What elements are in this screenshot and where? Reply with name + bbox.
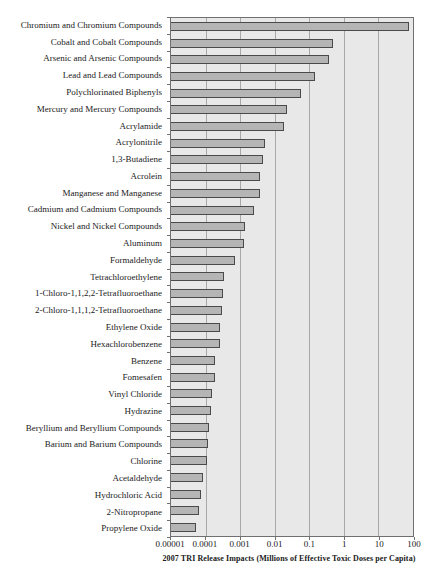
bar-row [171,152,413,169]
bar [171,272,224,281]
category-label: Chlorine [0,453,166,470]
y-axis-tick-mark [167,403,170,404]
bar-row [171,51,413,68]
bar-row [171,385,413,402]
y-axis-tick-mark [167,202,170,203]
bar-row [171,35,413,52]
bar-row [171,519,413,536]
bar-row [171,68,413,85]
category-label: Chromium and Chromium Compounds [0,17,166,34]
y-axis-tick-mark [167,134,170,135]
y-axis-tick-mark [167,51,170,52]
y-axis-tick-mark [167,386,170,387]
bar [171,22,409,31]
bar-row [171,18,413,35]
bar-row [171,502,413,519]
y-axis-tick-mark [167,285,170,286]
category-label: Formaldehyde [0,252,166,269]
category-label: Fomesafen [0,369,166,386]
bar-row [171,319,413,336]
bar [171,339,220,348]
bar-row [171,218,413,235]
category-label: Benzene [0,353,166,370]
x-tick-label: 10 [375,540,384,550]
category-axis-labels: Chromium and Chromium CompoundsCobalt an… [0,17,166,537]
y-axis-tick-mark [167,369,170,370]
bar [171,72,315,81]
category-label: Arsenic and Arsenic Compounds [0,51,166,68]
bar [171,323,220,332]
bar-row [171,202,413,219]
bar [171,439,208,448]
category-label: 1-Chloro-1,1,2,2-Tetrafluoroethane [0,286,166,303]
bar [171,406,211,415]
bar-row [171,235,413,252]
bar [171,105,287,114]
bar [171,456,207,465]
bar [171,139,265,148]
category-label: Beryllium and Beryllium Compounds [0,420,166,437]
bar-row [171,419,413,436]
y-axis-tick-mark [167,420,170,421]
x-tick-label: 0.01 [267,540,283,550]
bar [171,239,244,248]
bar-row [171,335,413,352]
category-label: Barium and Barium Compounds [0,437,166,454]
y-axis-tick-mark [167,302,170,303]
bar [171,473,203,482]
bar-row [171,452,413,469]
y-axis-tick-mark [167,537,170,538]
bar [171,155,263,164]
bar [171,206,254,215]
x-tick-label: 0.001 [230,540,250,550]
x-tick-label: 0.1 [304,540,315,550]
category-label: Nickel and Nickel Compounds [0,218,166,235]
y-axis-tick-mark [167,436,170,437]
y-axis-tick-mark [167,487,170,488]
category-label: Vinyl Chloride [0,386,166,403]
y-axis-tick-mark [167,520,170,521]
y-axis-tick-mark [167,352,170,353]
y-axis-tick-mark [167,453,170,454]
bar-row [171,302,413,319]
category-label: Polychlorinated Biphenyls [0,84,166,101]
y-axis-tick-mark [167,185,170,186]
bar [171,523,196,532]
y-axis-tick-mark [167,336,170,337]
category-label: 2-Nitropropane [0,504,166,521]
bar-row [171,252,413,269]
y-axis-tick-mark [167,235,170,236]
category-label: Cobalt and Cobalt Compounds [0,34,166,51]
category-label: Hydrazine [0,403,166,420]
category-label: Hydrochloric Acid [0,487,166,504]
bar-row [171,352,413,369]
y-axis-tick-mark [167,269,170,270]
toxic-release-impacts-bar-chart: Chromium and Chromium CompoundsCobalt an… [0,0,434,580]
y-axis-tick-mark [167,151,170,152]
bar [171,89,301,98]
bar [171,222,245,231]
bar-row [171,469,413,486]
category-label: 1,3-Butadiene [0,151,166,168]
category-label: 2-Chloro-1,1,1,2-Tetrafluoroethane [0,302,166,319]
y-axis-tick-mark [167,101,170,102]
category-label: Mercury and Mercury Compounds [0,101,166,118]
bar-row [171,369,413,386]
bar [171,55,329,64]
bar [171,373,215,382]
bar-row [171,118,413,135]
y-axis-tick-mark [167,218,170,219]
y-axis-tick-mark [167,17,170,18]
category-label: Acrylonitrile [0,134,166,151]
y-axis-tick-mark [167,252,170,253]
bar [171,490,201,499]
bar-row [171,85,413,102]
bar-row [171,402,413,419]
y-axis-tick-mark [167,34,170,35]
y-axis-tick-mark [167,503,170,504]
bar-row [171,269,413,286]
bar-row [171,285,413,302]
x-tick-label: 0.0001 [192,540,217,550]
bar [171,506,199,515]
y-axis-tick-mark [167,67,170,68]
